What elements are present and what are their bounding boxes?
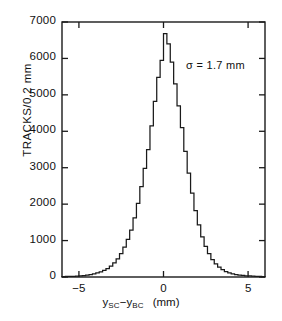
sigma-annotation: σ = 1.7 mm bbox=[186, 59, 245, 71]
y-tick-label: 1000 bbox=[10, 233, 56, 245]
x-axis-label-sub2: BC bbox=[132, 301, 144, 310]
x-axis-label-units: (mm) bbox=[153, 296, 180, 308]
figure-root: TRACKS/0.2 mm 01000200030004000500060007… bbox=[0, 0, 282, 321]
x-axis-label: ySC−yBC(mm) bbox=[0, 296, 282, 310]
y-tick-label: 4000 bbox=[10, 123, 56, 135]
y-tick-label: 0 bbox=[10, 269, 56, 281]
x-tick-label: 0 bbox=[149, 282, 179, 294]
y-tick-label: 7000 bbox=[10, 14, 56, 26]
y-tick-label: 3000 bbox=[10, 160, 56, 172]
y-tick-label: 2000 bbox=[10, 196, 56, 208]
y-tick-label: 6000 bbox=[10, 50, 56, 62]
x-tick-label: −5 bbox=[64, 282, 94, 294]
x-axis-label-sub1: SC bbox=[108, 301, 120, 310]
x-tick-label: 5 bbox=[233, 282, 263, 294]
y-tick-label: 5000 bbox=[10, 87, 56, 99]
